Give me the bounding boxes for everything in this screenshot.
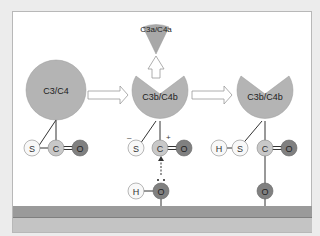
membrane-bottom-layer <box>13 218 312 232</box>
svg-text:O: O <box>157 187 164 197</box>
arrow-right-icon <box>192 86 232 104</box>
svg-text:C3b/C4b: C3b/C4b <box>247 92 283 102</box>
c3-c4-label: C3/C4 <box>43 86 69 96</box>
svg-text:S: S <box>29 144 35 154</box>
svg-text:H: H <box>216 144 223 154</box>
svg-text:O: O <box>76 144 83 154</box>
negative-charge: – <box>127 133 132 142</box>
svg-text:O: O <box>285 144 292 154</box>
svg-text:C3b/C4b: C3b/C4b <box>142 92 178 102</box>
stage-1-native: C3/C4 S C O <box>24 60 88 156</box>
arrow-up-icon <box>148 56 164 78</box>
svg-text:O: O <box>261 187 268 197</box>
svg-text:C3a/C4a: C3a/C4a <box>140 25 172 34</box>
complement-thioester-diagram: C3/C4 S C O C3a/C4a C3b/C4b – + S C <box>0 0 320 236</box>
arrow-right-icon <box>88 86 128 104</box>
membrane-top-layer <box>13 206 312 218</box>
svg-text:C: C <box>262 144 269 154</box>
positive-charge: + <box>166 133 171 142</box>
svg-text:C: C <box>157 144 164 154</box>
svg-text:S: S <box>133 144 139 154</box>
stage-2-activated: C3a/C4a C3b/C4b – + S C O H O <box>127 25 192 207</box>
svg-text:C: C <box>53 144 60 154</box>
svg-text:S: S <box>237 144 243 154</box>
svg-text:H: H <box>133 187 140 197</box>
svg-text:O: O <box>180 144 187 154</box>
